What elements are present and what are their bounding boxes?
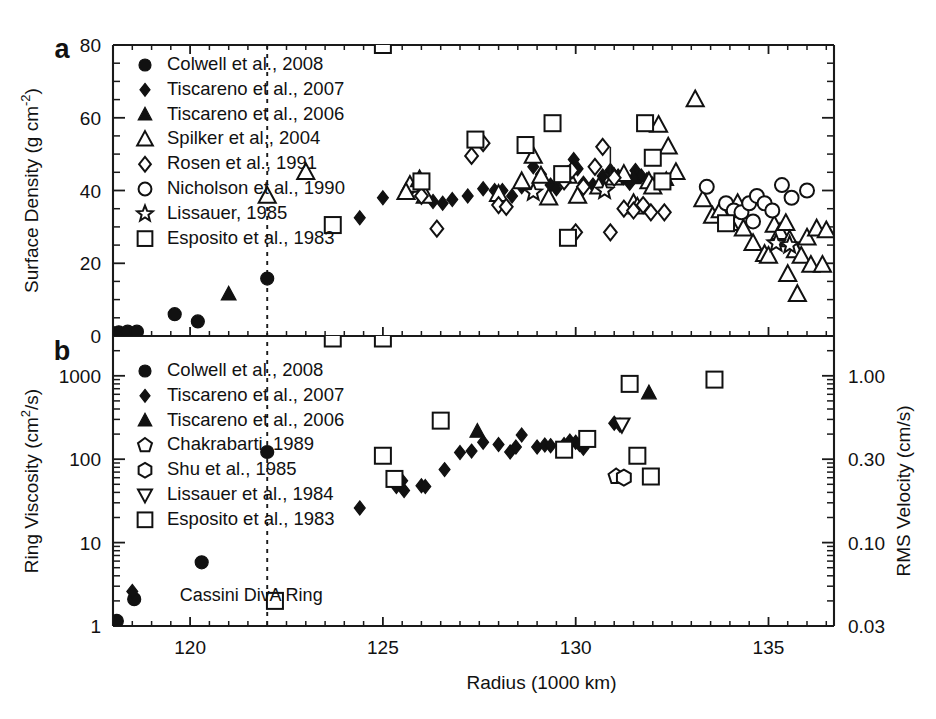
panel-b-right-tick-label: 0.03 xyxy=(848,616,885,637)
data-marker xyxy=(654,173,670,189)
panel-b-right-tick-label: 0.10 xyxy=(848,533,885,554)
scientific-figure: 120125130135Radius (1000 km)020406080Sur… xyxy=(0,0,936,719)
legend-item[interactable]: Chakrabarti, 1989 xyxy=(138,433,314,454)
legend-item[interactable]: Lissauer et al., 1984 xyxy=(138,483,334,504)
data-marker xyxy=(139,183,152,196)
data-marker xyxy=(658,204,671,220)
data-marker xyxy=(466,444,477,458)
data-marker xyxy=(643,469,659,485)
data-marker xyxy=(138,489,152,502)
x-tick-label: 125 xyxy=(367,637,399,658)
data-marker xyxy=(779,265,796,281)
legend-item[interactable]: Tiscareno et al., 2006 xyxy=(138,103,344,124)
data-marker xyxy=(718,215,734,231)
x-tick-label: 120 xyxy=(174,637,206,658)
legend-label: Tiscareno et al., 2006 xyxy=(167,409,344,430)
data-marker xyxy=(660,138,677,154)
legend-item[interactable]: Tiscareno et al., 2006 xyxy=(138,409,344,430)
panel-b-y-tick-label: 1 xyxy=(90,616,101,637)
data-marker xyxy=(579,431,595,447)
x-axis-title: Radius (1000 km) xyxy=(467,672,617,693)
legend-item[interactable]: Tiscareno et al., 2007 xyxy=(140,78,344,99)
panel-a-y-tick-label: 20 xyxy=(80,253,101,274)
panel-b-y-title: Ring Viscosity (cm2/s) xyxy=(18,389,42,573)
svg-text:RMS Velocity (cm/s): RMS Velocity (cm/s) xyxy=(893,405,914,576)
data-marker xyxy=(785,191,799,205)
legend-item[interactable]: Esposito et al., 1983 xyxy=(138,508,335,529)
data-marker xyxy=(413,173,429,189)
data-marker xyxy=(433,413,449,429)
data-marker xyxy=(138,438,152,451)
data-marker xyxy=(455,446,466,460)
data-marker xyxy=(556,442,572,458)
legend-item[interactable]: Shu et al., 1985 xyxy=(139,458,297,479)
data-marker xyxy=(354,501,365,515)
data-marker xyxy=(775,178,789,192)
data-marker xyxy=(622,376,638,392)
data-marker xyxy=(191,315,204,328)
data-marker xyxy=(596,139,609,155)
panel-b-y-tick-label: 10 xyxy=(80,533,101,554)
legend-label: Esposito et al., 1983 xyxy=(167,508,335,529)
legend-label: Esposito et al., 1983 xyxy=(167,227,335,248)
series-group xyxy=(325,37,734,246)
a-ring-label: A Ring xyxy=(270,585,323,605)
data-marker xyxy=(516,428,527,442)
legend-label: Spilker et al., 2004 xyxy=(167,127,320,148)
data-marker xyxy=(465,148,478,164)
legend-label: Lissauer, 1985 xyxy=(167,202,287,223)
panel-b-legend: Colwell et al., 2008Tiscareno et al., 20… xyxy=(138,359,345,529)
legend-label: Tiscareno et al., 2007 xyxy=(167,384,344,405)
data-marker xyxy=(518,137,534,153)
data-marker xyxy=(447,193,458,207)
data-marker xyxy=(377,191,388,205)
data-marker xyxy=(765,204,779,218)
data-marker xyxy=(604,224,617,240)
legend-item[interactable]: Nicholson et al., 1990 xyxy=(139,177,345,198)
data-marker xyxy=(645,150,661,166)
data-marker xyxy=(554,166,570,182)
data-marker xyxy=(139,157,151,172)
data-marker xyxy=(493,438,504,452)
data-marker xyxy=(744,234,761,250)
panel-b-right-tick-label: 1.00 xyxy=(848,366,885,387)
legend-label: Tiscareno et al., 2006 xyxy=(167,103,344,124)
panel-a-y-title: Surface Density (g cm-2) xyxy=(18,88,42,293)
data-marker xyxy=(478,182,489,196)
legend-item[interactable]: Tiscareno et al., 2007 xyxy=(140,384,344,405)
legend-label: Tiscareno et al., 2007 xyxy=(167,78,344,99)
data-marker xyxy=(138,512,153,527)
figure-canvas: 120125130135Radius (1000 km)020406080Sur… xyxy=(0,0,936,719)
data-marker xyxy=(139,365,151,377)
legend-label: Colwell et al., 2008 xyxy=(167,359,323,380)
series-group xyxy=(470,385,656,437)
legend-label: Shu et al., 1985 xyxy=(167,458,297,479)
legend-item[interactable]: Colwell et al., 2008 xyxy=(139,53,323,74)
data-marker xyxy=(467,132,483,148)
legend-item[interactable]: Rosen et al., 1991 xyxy=(139,152,317,173)
panel-b-right-y-title: RMS Velocity (cm/s) xyxy=(893,405,914,576)
data-marker xyxy=(629,448,645,464)
panel-b-y-tick-label: 100 xyxy=(69,449,101,470)
legend-label: Lissauer et al., 1984 xyxy=(167,483,334,504)
legend-item[interactable]: Lissauer, 1985 xyxy=(137,202,287,223)
data-marker xyxy=(140,389,150,402)
series-group xyxy=(105,272,274,339)
legend-item[interactable]: Colwell et al., 2008 xyxy=(139,359,323,380)
data-marker xyxy=(137,131,153,145)
data-marker xyxy=(545,115,561,131)
panel-b-y-tick-label: 1000 xyxy=(59,366,101,387)
data-marker xyxy=(789,285,806,301)
data-marker xyxy=(325,330,341,346)
legend-item[interactable]: Spilker et al., 2004 xyxy=(137,127,320,148)
panel-a-y-tick-label: 80 xyxy=(80,35,101,56)
x-tick-label: 135 xyxy=(753,637,785,658)
legend-label: Rosen et al., 1991 xyxy=(167,152,317,173)
legend-label: Nicholson et al., 1990 xyxy=(167,177,345,198)
data-marker xyxy=(138,231,153,246)
legend-item[interactable]: Esposito et al., 1983 xyxy=(138,227,335,248)
data-marker xyxy=(439,463,450,477)
data-marker xyxy=(430,221,443,237)
panel-b-letter: b xyxy=(54,336,71,366)
legend-label: Chakrabarti, 1989 xyxy=(167,433,314,454)
